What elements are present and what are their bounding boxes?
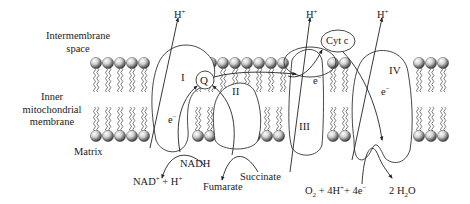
- intermembrane-space-label: Intermembrane space: [38, 31, 118, 54]
- succinate-label: Succinate: [240, 172, 281, 183]
- lipid-bilayer-right-middle: [327, 57, 350, 141]
- proton-label-3: H+: [306, 10, 318, 21]
- complex-1-label: I: [181, 72, 185, 83]
- complex-2-label: II: [232, 86, 239, 97]
- nad-plus-label: NAD+ + H+: [133, 177, 182, 188]
- matrix-label: Matrix: [74, 147, 103, 158]
- fumarate-label: Fumarate: [203, 182, 243, 193]
- inner-membrane-label: Inner mitochondrial membrane: [12, 92, 92, 128]
- complex-4-label: IV: [389, 65, 401, 76]
- proton-label-4: H+: [377, 10, 389, 21]
- electron-label-complex-1: e−: [168, 115, 177, 126]
- complex-4-shape: [352, 50, 412, 162]
- oxygen-reaction-label: O2 + 4H++ 4e−: [305, 186, 366, 197]
- electron-transport-chain-diagram: Intermembrane space Inner mitochondrial …: [0, 0, 470, 204]
- ubiquinone-label: Q: [200, 75, 208, 86]
- water-label: 2 H2O: [389, 186, 416, 197]
- electron-label-complex-4: e−: [381, 87, 390, 98]
- nadh-label: NADH: [180, 159, 210, 170]
- lipid-bilayer-right: [413, 57, 448, 141]
- electron-path-q-to-3: [214, 72, 296, 77]
- electron-label-complex-3: e−: [313, 76, 322, 87]
- proton-label-1: H+: [174, 10, 186, 21]
- complex-3-label: III: [299, 121, 310, 132]
- lipid-bilayer-left: [90, 57, 149, 141]
- cytochrome-c-label: Cyt c: [326, 36, 348, 47]
